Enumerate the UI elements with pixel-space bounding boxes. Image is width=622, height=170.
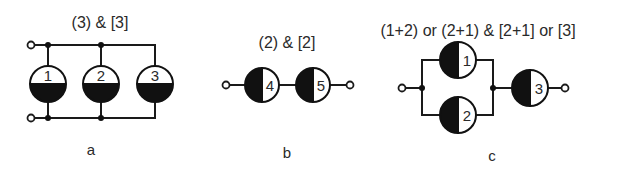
cell-b4: 4 — [245, 68, 279, 102]
diagram-a-title: (3) & [3] — [72, 14, 129, 31]
cell-a3: 3 — [137, 66, 173, 102]
terminal-icon — [562, 85, 569, 92]
half-filled-cell-icon — [30, 84, 66, 102]
diagram-a: (3) & [3] 1 2 — [28, 14, 174, 158]
diagram-c-caption: c — [488, 147, 496, 164]
top-rail — [35, 45, 155, 66]
cell-c2: 2 — [440, 97, 476, 133]
diagram-c: (1+2) or (2+1) & [2+1] or [3] 1 2 3 — [380, 22, 575, 164]
cell-label: 1 — [463, 52, 471, 69]
half-filled-cell-icon — [512, 70, 530, 106]
cell-label: 1 — [44, 67, 52, 84]
junction-dot-icon — [98, 115, 104, 121]
diagram-b: (2) & [2] 4 5 b — [223, 34, 354, 161]
cell-c3: 3 — [512, 70, 548, 106]
diagram-canvas: (3) & [3] 1 2 — [0, 0, 622, 170]
junction-dot-icon — [45, 115, 51, 121]
half-filled-cell-icon — [137, 84, 173, 102]
diagram-a-caption: a — [87, 141, 96, 158]
diagram-b-caption: b — [283, 144, 291, 161]
diagram-b-title: (2) & [2] — [259, 34, 316, 51]
cell-a2: 2 — [83, 66, 119, 102]
half-filled-cell-icon — [440, 97, 458, 133]
cell-label: 2 — [463, 107, 471, 124]
bottom-rail — [35, 102, 155, 118]
terminal-icon — [28, 115, 35, 122]
half-filled-cell-icon — [440, 42, 458, 78]
half-filled-cell-icon — [83, 84, 119, 102]
cell-label: 3 — [535, 80, 543, 97]
cell-a1: 1 — [30, 66, 66, 102]
terminal-icon — [399, 85, 406, 92]
cell-label: 5 — [317, 77, 325, 94]
junction-dot-icon — [45, 42, 51, 48]
cell-label: 4 — [266, 77, 274, 94]
diagram-c-title: (1+2) or (2+1) & [2+1] or [3] — [380, 22, 575, 39]
cell-label: 3 — [151, 67, 159, 84]
terminal-icon — [28, 42, 35, 49]
cell-b5: 5 — [296, 68, 330, 102]
half-filled-cell-icon — [245, 68, 262, 102]
terminal-icon — [223, 82, 230, 89]
cell-c1: 1 — [440, 42, 476, 78]
terminal-icon — [347, 82, 354, 89]
cell-label: 2 — [97, 67, 105, 84]
junction-dot-icon — [419, 85, 425, 91]
half-filled-cell-icon — [296, 68, 313, 102]
junction-dot-icon — [98, 42, 104, 48]
junction-dot-icon — [490, 85, 496, 91]
